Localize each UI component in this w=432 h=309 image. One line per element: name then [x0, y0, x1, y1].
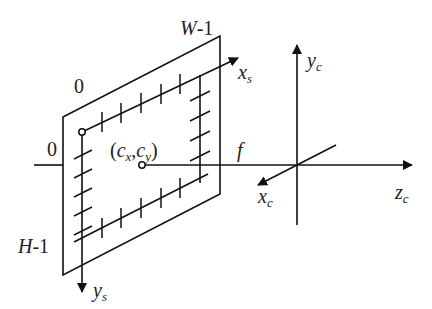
xc-axis	[258, 165, 297, 185]
label-xc: xc	[258, 186, 273, 209]
camera-model-diagram: W-1 0 0 H-1 (cx,cy) f xs ys yc xc zc	[0, 0, 432, 309]
left-edge-ticks	[74, 150, 92, 235]
label-focal-length: f	[237, 140, 243, 160]
diagram-graphics	[0, 0, 432, 309]
label-h-minus-1: H-1	[18, 236, 49, 256]
label-origin-left: 0	[47, 139, 57, 159]
bottom-edge-ticks	[102, 178, 180, 238]
image-origin-point	[79, 129, 85, 135]
top-edge-ticks	[102, 74, 180, 132]
label-origin-top: 0	[74, 76, 84, 96]
label-xs: xs	[238, 62, 252, 85]
label-yc: yc	[307, 50, 322, 73]
label-ys: ys	[93, 280, 107, 303]
label-principal-point: (cx,cy)	[110, 140, 158, 163]
label-w-minus-1: W-1	[180, 18, 213, 38]
xc-axis-back	[297, 145, 336, 165]
label-zc: zc	[395, 182, 409, 205]
